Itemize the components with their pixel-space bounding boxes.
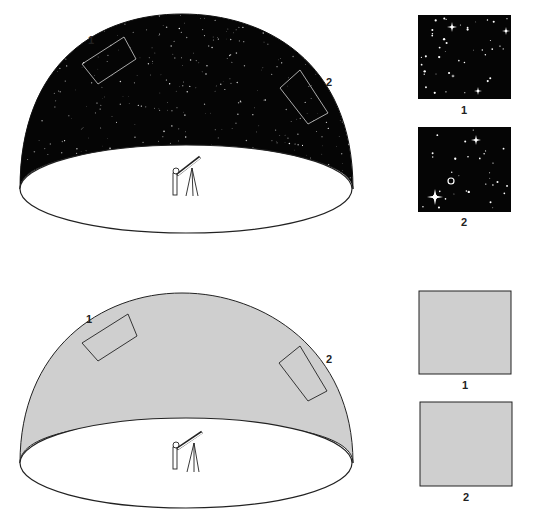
inset-uniform-1: 1 [419,291,511,391]
inset-uniform-2: 2 [420,402,512,503]
region-label-2: 2 [326,76,332,88]
region-label-2: 2 [326,353,332,365]
inset-label-1: 1 [461,104,467,116]
region-label-1: 1 [86,313,92,325]
inset-label-1: 1 [462,379,468,391]
inset-label-2: 2 [463,491,469,503]
ground-disk [20,145,352,233]
inset-starry-1: 1 [418,15,511,116]
dome-uniform: 1 2 [20,293,353,508]
ground-disk [20,418,352,508]
inset-starry-2: 2 [418,127,511,228]
inset-label-2: 2 [461,216,467,228]
dome-starry: 1 2 [20,14,353,233]
region-label-1: 1 [88,34,94,46]
